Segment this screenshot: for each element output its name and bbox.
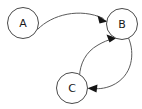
- node-b[interactable]: B: [107, 9, 138, 40]
- node-b-label: B: [118, 18, 126, 31]
- edge-c-to-b[interactable]: [80, 35, 117, 77]
- edge-a-to-b-arrowhead: [98, 16, 108, 24]
- node-a-label: A: [19, 17, 27, 30]
- edge-b-to-c-arrowhead: [88, 85, 98, 93]
- node-a[interactable]: A: [8, 8, 39, 39]
- node-c-label: C: [68, 82, 76, 95]
- edge-a-to-b[interactable]: [38, 13, 108, 29]
- edge-c-to-b-path: [80, 39, 113, 77]
- node-c[interactable]: C: [57, 73, 88, 104]
- directed-graph: A B C: [0, 0, 142, 109]
- edge-a-to-b-path: [38, 13, 104, 29]
- diagram-canvas: A B C: [0, 0, 142, 109]
- edge-b-to-c[interactable]: [88, 38, 132, 93]
